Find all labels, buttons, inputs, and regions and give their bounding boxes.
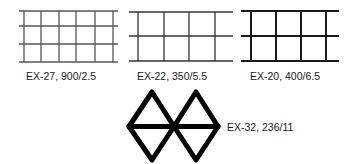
ex22-label: EX-22, 350/5.5 xyxy=(137,71,207,82)
ex22-grid-pattern xyxy=(129,12,233,61)
ex27-label: EX-27, 900/2.5 xyxy=(26,71,96,82)
ex20-label: EX-20, 400/6.5 xyxy=(250,71,320,82)
ex20-grid-pattern xyxy=(241,11,339,61)
ex32-label: EX-32, 236/11 xyxy=(227,122,293,133)
ex32-diamond-pattern xyxy=(129,92,218,160)
mesh-diagrams xyxy=(0,0,354,164)
ex27-grid-pattern xyxy=(19,11,118,62)
mesh-pattern-figure: EX-27, 900/2.5 EX-22, 350/5.5 EX-20, 400… xyxy=(0,0,354,164)
